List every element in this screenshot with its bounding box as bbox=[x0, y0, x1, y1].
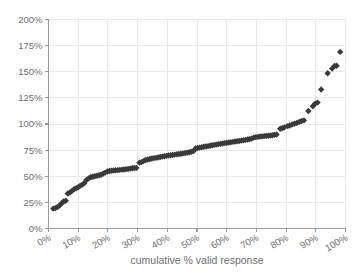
x-tick-label: 0% bbox=[35, 231, 53, 248]
y-tick-label: 75% bbox=[23, 145, 43, 156]
x-axis-ticks: 0%10%20%30%40%50%60%70%80%90%100% bbox=[35, 229, 350, 254]
x-axis-title: cumulative % valid response bbox=[130, 254, 263, 266]
data-point bbox=[324, 70, 330, 76]
y-tick-label: 100% bbox=[18, 118, 43, 129]
x-tick-label: 90% bbox=[298, 231, 320, 250]
scatter-chart: 0%25%50%75%100%125%150%175%200%0%10%20%3… bbox=[0, 0, 363, 279]
data-point bbox=[318, 86, 324, 92]
x-tick-label: 20% bbox=[90, 231, 112, 250]
x-tick-label: 10% bbox=[60, 231, 82, 250]
x-tick-label: 100% bbox=[323, 231, 350, 253]
gridlines bbox=[49, 20, 346, 229]
y-tick-label: 50% bbox=[23, 171, 43, 182]
data-point bbox=[305, 108, 311, 114]
y-axis-ticks: 0%25%50%75%100%125%150%175%200% bbox=[18, 14, 48, 234]
data-point bbox=[337, 49, 343, 55]
x-tick-label: 70% bbox=[238, 231, 260, 250]
x-tick-label: 30% bbox=[120, 231, 142, 250]
plot-area: 0%25%50%75%100%125%150%175%200%0%10%20%3… bbox=[0, 0, 363, 279]
y-tick-label: 25% bbox=[23, 197, 43, 208]
x-tick-label: 40% bbox=[149, 231, 171, 250]
y-tick-label: 125% bbox=[18, 92, 43, 103]
x-tick-label: 50% bbox=[179, 231, 201, 250]
y-tick-label: 0% bbox=[29, 223, 43, 234]
x-tick-label: 60% bbox=[209, 231, 231, 250]
x-tick-label: 80% bbox=[268, 231, 290, 250]
y-tick-label: 175% bbox=[18, 40, 43, 51]
y-tick-label: 150% bbox=[18, 66, 43, 77]
y-tick-label: 200% bbox=[18, 14, 43, 25]
